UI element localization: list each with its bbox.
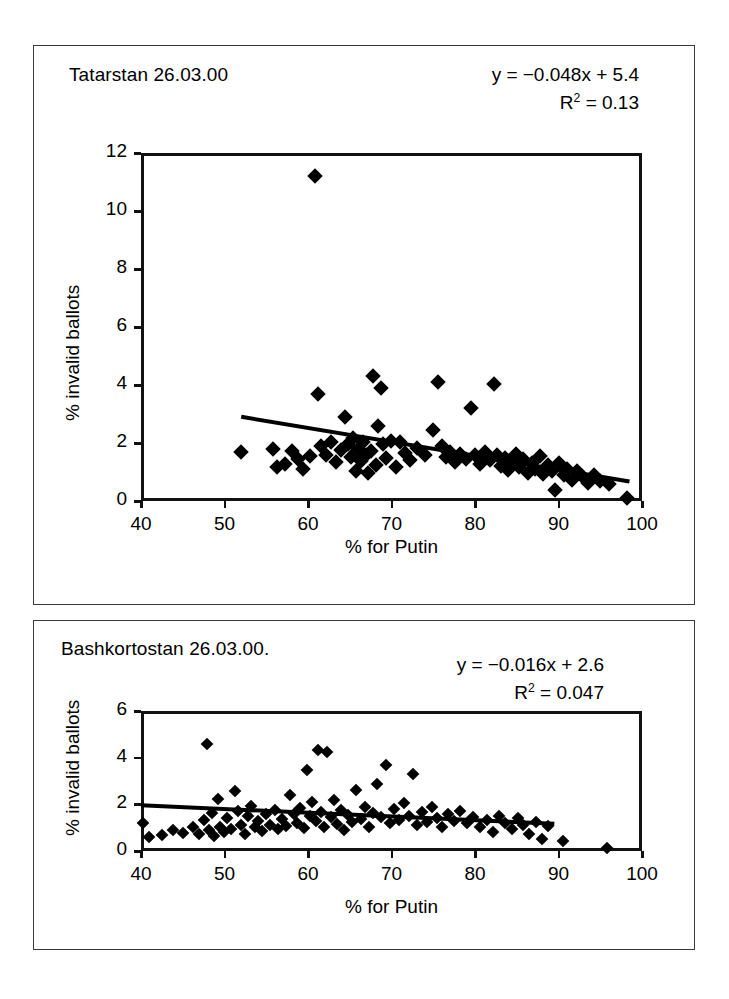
trend-line: [34, 46, 696, 606]
trend-line: [34, 621, 696, 951]
chart-panel-tatarstan: Tatarstan 26.03.00 y = −0.048x + 5.4 R2 …: [33, 45, 695, 605]
figure-root: Tatarstan 26.03.00 y = −0.048x + 5.4 R2 …: [0, 0, 729, 999]
chart-panel-bashkortostan: Bashkortostan 26.03.00. y = −0.016x + 2.…: [33, 620, 695, 950]
